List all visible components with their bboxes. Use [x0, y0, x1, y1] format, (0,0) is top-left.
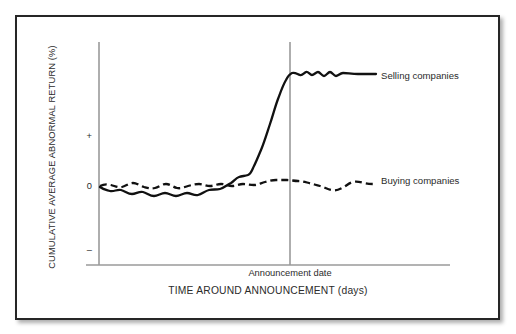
screenshot-root: CUMULATIVE AVERAGE ABNORMAL RETURN (%) +…: [0, 0, 516, 334]
y-tick-label-zero: 0: [76, 181, 92, 191]
chart-plot-area: CUMULATIVE AVERAGE ABNORMAL RETURN (%) +…: [0, 0, 516, 334]
series-label-buying-companies: Buying companies: [381, 175, 459, 186]
chart-svg: [0, 0, 516, 334]
series-label-selling-companies: Selling companies: [381, 70, 459, 81]
y-tick-label-plus: +: [76, 131, 92, 141]
announcement-date-caption: Announcement date: [190, 268, 390, 278]
y-tick-label-minus: –: [76, 245, 92, 255]
series-line-buying-companies: [100, 180, 376, 190]
x-axis-title: TIME AROUND ANNOUNCEMENT (days): [86, 285, 450, 296]
y-axis-title: CUMULATIVE AVERAGE ABNORMAL RETURN (%): [47, 41, 57, 273]
series-line-selling-companies: [100, 72, 376, 196]
